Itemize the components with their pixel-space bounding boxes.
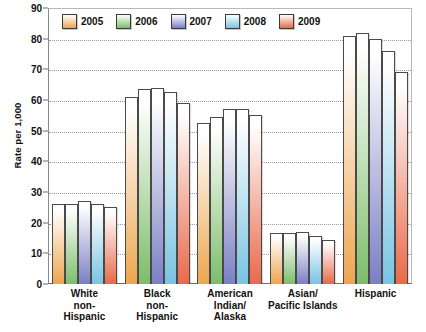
x-axis-label-line: White xyxy=(48,288,120,300)
legend-item-2007[interactable]: 2007 xyxy=(171,14,212,29)
x-axis-label-line: Indian/ xyxy=(194,300,266,312)
bar-2009[interactable] xyxy=(322,240,335,284)
legend-swatch-icon xyxy=(171,14,186,29)
x-axis-label-line: Pacific Islands xyxy=(267,300,339,312)
x-axis-label-line: American xyxy=(194,288,266,300)
legend-label: 2007 xyxy=(190,17,212,27)
bar-2009[interactable] xyxy=(104,207,117,284)
bar-2005[interactable] xyxy=(52,204,65,284)
bar-2008[interactable] xyxy=(382,51,395,284)
bar-chart: Rate per 1,000 9080706050403020100 20052… xyxy=(0,0,426,332)
bar-2008[interactable] xyxy=(236,109,249,284)
legend-label: 2009 xyxy=(298,17,320,27)
y-axis-ticks: 9080706050403020100 xyxy=(0,0,48,332)
y-tick-label: 20 xyxy=(31,217,42,228)
x-axis-label: Blacknon-Hispanic xyxy=(121,288,193,323)
bar-2005[interactable] xyxy=(270,233,283,284)
legend-swatch-icon xyxy=(279,14,294,29)
bar-2008[interactable] xyxy=(91,204,104,284)
y-tick-mark xyxy=(43,253,48,254)
y-tick-mark xyxy=(43,284,48,285)
x-axis-label: Asian/Pacific Islands xyxy=(267,288,339,323)
y-tick-label: 0 xyxy=(36,279,42,290)
legend-item-2006[interactable]: 2006 xyxy=(116,14,157,29)
y-tick-mark xyxy=(43,100,48,101)
bar-2006[interactable] xyxy=(283,233,296,284)
y-tick-label: 10 xyxy=(31,248,42,259)
legend-swatch-icon xyxy=(116,14,131,29)
x-axis-label-line: Black xyxy=(121,288,193,300)
y-tick-label: 60 xyxy=(31,95,42,106)
x-axis-label-line: non- xyxy=(121,300,193,312)
bar-2009[interactable] xyxy=(395,72,408,284)
bar-2006[interactable] xyxy=(210,117,223,284)
bar-2005[interactable] xyxy=(343,36,356,284)
bar-2005[interactable] xyxy=(197,123,210,284)
chart-legend: 20052006200720082009 xyxy=(62,14,320,29)
bar-2007[interactable] xyxy=(296,232,309,284)
y-tick-label: 30 xyxy=(31,187,42,198)
legend-label: 2005 xyxy=(81,17,103,27)
legend-swatch-icon xyxy=(62,14,77,29)
bar-group xyxy=(52,8,117,284)
bar-2008[interactable] xyxy=(164,92,177,284)
legend-item-2008[interactable]: 2008 xyxy=(225,14,266,29)
x-axis-label-line: non- xyxy=(48,300,120,312)
y-tick-mark xyxy=(43,130,48,131)
y-tick-mark xyxy=(43,192,48,193)
x-axis-label: Whitenon-Hispanic xyxy=(48,288,120,323)
bar-group xyxy=(197,8,262,284)
x-axis-label-line: Alaska xyxy=(194,311,266,323)
y-tick-mark xyxy=(43,38,48,39)
y-tick-mark xyxy=(43,222,48,223)
x-axis-labels: Whitenon-HispanicBlacknon-HispanicAmeric… xyxy=(48,288,412,323)
bar-group xyxy=(270,8,335,284)
bar-2005[interactable] xyxy=(125,97,138,284)
x-axis-label-line: Asian/ xyxy=(267,288,339,300)
y-tick-mark xyxy=(43,69,48,70)
legend-item-2005[interactable]: 2005 xyxy=(62,14,103,29)
y-tick-label: 50 xyxy=(31,125,42,136)
legend-label: 2008 xyxy=(244,17,266,27)
bar-2008[interactable] xyxy=(309,236,322,284)
y-tick-label: 90 xyxy=(31,3,42,14)
y-tick-label: 40 xyxy=(31,156,42,167)
bar-2007[interactable] xyxy=(369,39,382,284)
bar-group xyxy=(343,8,408,284)
bar-2007[interactable] xyxy=(223,109,236,284)
bar-2009[interactable] xyxy=(177,103,190,284)
bar-2007[interactable] xyxy=(151,88,164,284)
x-axis-label: AmericanIndian/Alaska xyxy=(194,288,266,323)
bar-2006[interactable] xyxy=(65,204,78,284)
bar-2006[interactable] xyxy=(356,33,369,284)
legend-label: 2006 xyxy=(135,17,157,27)
bar-2006[interactable] xyxy=(138,89,151,284)
bar-group xyxy=(125,8,190,284)
x-axis-label: Hispanic xyxy=(340,288,412,323)
legend-swatch-icon xyxy=(225,14,240,29)
x-axis-label-line: Hispanic xyxy=(121,311,193,323)
y-tick-mark xyxy=(43,8,48,9)
y-tick-label: 70 xyxy=(31,64,42,75)
bar-2007[interactable] xyxy=(78,201,91,284)
bar-2009[interactable] xyxy=(249,115,262,284)
bar-groups xyxy=(48,8,412,284)
x-axis-label-line: Hispanic xyxy=(48,311,120,323)
y-tick-label: 80 xyxy=(31,33,42,44)
legend-item-2009[interactable]: 2009 xyxy=(279,14,320,29)
x-axis-label-line: Hispanic xyxy=(340,288,412,300)
y-tick-mark xyxy=(43,161,48,162)
